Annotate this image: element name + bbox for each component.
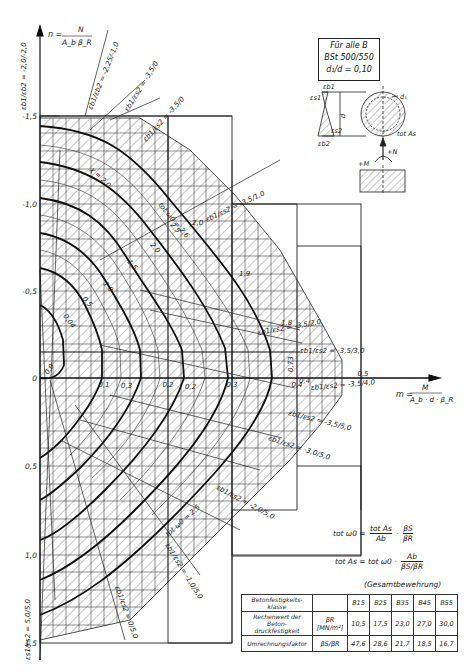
svg-text:n =: n = — [48, 30, 62, 39]
concrete-grade-table: Betonfestigkeits- klasse B15 B25 B35 B45… — [241, 594, 458, 652]
svg-text:1,9: 1,9 — [239, 270, 251, 278]
x-tick: 0,5 — [357, 370, 369, 378]
svg-text:εb1/εs2 = -3,5/3,0: εb1/εs2 = -3,5/3,0 — [300, 347, 365, 355]
y-tick: 0,5 — [25, 462, 37, 471]
svg-text:0,4: 0,4 — [299, 377, 310, 385]
svg-text:εs1/εs2 = 5,0/5,0: εs1/εs2 = 5,0/5,0 — [24, 598, 32, 660]
y-tick-labels: -1,5 -1,0 -0,5 0 0,5 1,0 1,5 — [22, 112, 37, 648]
svg-text:+N: +N — [387, 148, 397, 156]
svg-text:εb1/εb2 = -2,25/-1,0: εb1/εb2 = -2,25/-1,0 — [86, 40, 121, 110]
x-tick: 0,2 — [162, 381, 174, 389]
svg-text:εs2: εs2 — [331, 127, 342, 135]
x-axis-arrow — [429, 375, 440, 381]
y-tick: 1,0 — [25, 551, 37, 560]
table-row: Umrechnungsfaktor βS/βR 47,6 28,6 21,7 1… — [242, 636, 458, 652]
svg-text:0,73: 0,73 — [287, 356, 295, 372]
svg-text:εb2: εb2 — [318, 140, 330, 148]
hatched-region — [40, 116, 360, 646]
svg-text:d₁: d₁ — [400, 93, 407, 101]
svg-text:N: N — [78, 25, 84, 34]
table-row: Rechenwert der Beton- druckfestigkeit βR… — [242, 612, 458, 636]
y-axis-label: n = N A_b β_R — [48, 25, 92, 47]
cross-section-diagram — [318, 86, 405, 195]
svg-text:0,3: 0,3 — [121, 382, 132, 390]
svg-text:+M: +M — [358, 160, 369, 168]
y-tick: -0,5 — [22, 287, 37, 296]
formula-note: (Gesamtbewehrung) — [364, 580, 441, 589]
y-tick: 0 — [32, 374, 37, 383]
table-row: Betonfestigkeits- klasse B15 B25 B35 B45… — [242, 595, 458, 612]
svg-text:1,8: 1,8 — [281, 319, 293, 327]
y-tick: -1,5 — [22, 112, 37, 121]
svg-text:A_b β_R: A_b β_R — [61, 38, 92, 47]
svg-text:εs1: εs1 — [310, 94, 321, 102]
y-tick: -1,0 — [22, 200, 37, 209]
interaction-diagram: -1,5 -1,0 -0,5 0 0,5 1,0 1,5 0,1 0,2 0,3… — [0, 0, 471, 672]
formula-tot-as: tot As = tot ω0 · Ab βS/βR — [335, 552, 425, 571]
svg-text:2,0: 2,0 — [192, 219, 204, 227]
formula-tot-omega: tot ω0 = tot As Ab · βS βR — [333, 524, 415, 543]
svg-text:εb1: εb1 — [323, 83, 335, 91]
info-box: Für alle B BSt 500/550 d₁/d = 0,10 — [318, 38, 380, 81]
svg-text:εb1/εs2 = -3,5/0: εb1/εs2 = -3,5/0 — [123, 59, 161, 113]
x-tick: 0,3 — [226, 381, 237, 389]
svg-text:tot As: tot As — [397, 130, 417, 138]
svg-text:A_b · d · β_R: A_b · d · β_R — [409, 396, 453, 404]
svg-text:0,2: 0,2 — [185, 383, 197, 391]
svg-text:M: M — [422, 383, 429, 392]
y-axis-arrow — [37, 26, 43, 36]
x-axis-label: m = M A_b · d · β_R — [396, 383, 453, 404]
x-tick: 0,1 — [98, 381, 109, 389]
svg-text:εb1/εb2 = -2,0/-2,0: εb1/εb2 = -2,0/-2,0 — [20, 42, 28, 110]
